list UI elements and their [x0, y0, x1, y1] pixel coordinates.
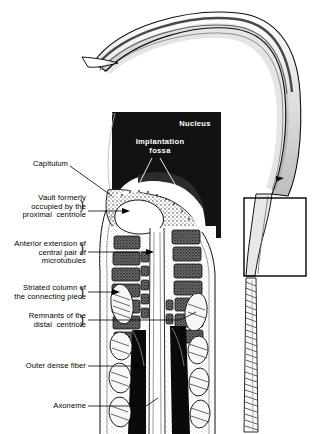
central-pair-channel — [149, 228, 165, 434]
label-outer-dense-fiber: Outer dense fiber — [4, 362, 86, 371]
label-striated-column: Striated column of the connecting piece — [0, 284, 86, 301]
label-implantation-fossa: Implantation fossa — [118, 138, 202, 155]
sperm-tail — [244, 278, 258, 432]
label-remnants: Remnants of the distal centriole — [4, 312, 86, 329]
label-nucleus: Nucleus — [160, 120, 230, 129]
brace-anterior-extension: ) — [80, 242, 84, 254]
neck-detail-drawing — [100, 112, 221, 434]
brace-vault: ) — [80, 199, 84, 211]
label-axoneme: Axoneme — [18, 402, 86, 411]
brace-remnants: ) — [80, 314, 84, 326]
sperm-ultrastructure-figure: Nucleus Implantation fossa Capitulum Vau… — [0, 0, 313, 434]
label-capitulum: Capitulum — [6, 160, 68, 169]
brace-striated-column: ) — [80, 286, 84, 298]
label-vault: Vault formerly occupied by the proximal … — [2, 194, 86, 220]
label-anterior-extension: Anterior extension of central pair of mi… — [0, 240, 86, 266]
